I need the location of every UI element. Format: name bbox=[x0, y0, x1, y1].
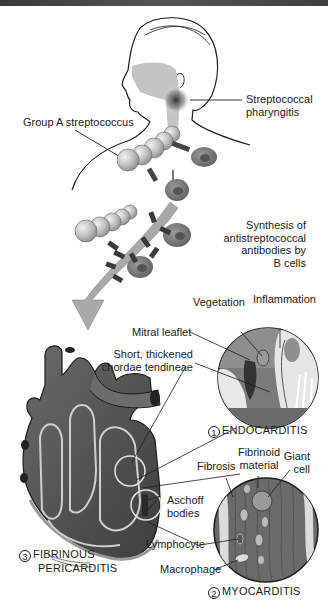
label-line: chordae tendineae bbox=[100, 361, 193, 374]
caption-myocarditis: 2MYOCARDITIS bbox=[208, 585, 301, 599]
label-line: B cells bbox=[218, 257, 306, 270]
label-line: Synthesis of bbox=[218, 219, 306, 232]
number-badge-2: 2 bbox=[208, 587, 220, 599]
label-fibrinoid-material: Fibrinoid material bbox=[236, 446, 282, 471]
label-line: Short, thickened bbox=[100, 348, 193, 361]
label-line: Aschoff bbox=[167, 494, 204, 507]
label-inflammation: Inflammation bbox=[253, 293, 316, 306]
label-line: Streptococcal bbox=[246, 93, 313, 106]
label-line: bodies bbox=[167, 507, 204, 520]
label-lymphocyte: Lymphocyte bbox=[146, 538, 205, 551]
heart-illustration bbox=[20, 346, 161, 567]
label-chordae-tendineae: Short, thickened chordae tendineae bbox=[100, 348, 193, 373]
caption-endocarditis: 1ENDOCARDITIS bbox=[208, 424, 308, 438]
label-vegetation: Vegetation bbox=[193, 296, 245, 309]
label-line: Giant bbox=[280, 450, 310, 463]
label-mitral-leaflet: Mitral leaflet bbox=[132, 326, 191, 339]
number-badge-3: 3 bbox=[19, 550, 31, 562]
label-line: Fibrinoid bbox=[236, 446, 282, 459]
myocarditis-magnified-view bbox=[214, 478, 320, 582]
label-macrophage: Macrophage bbox=[160, 563, 221, 576]
head-figure bbox=[72, 18, 250, 190]
caption-text: MYOCARDITIS bbox=[222, 585, 301, 597]
caption-text: PERICARDITIS bbox=[19, 562, 117, 575]
caption-fibrinous-pericarditis: 3FIBRINOUS PERICARDITIS bbox=[19, 548, 117, 575]
label-giant-cell: Giant cell bbox=[280, 450, 310, 475]
caption-text: ENDOCARDITIS bbox=[222, 424, 308, 436]
label-fibrosis: Fibrosis bbox=[197, 460, 236, 473]
label-line: antibodies by bbox=[218, 244, 306, 257]
label-group-a-streptococcus: Group A streptococcus bbox=[23, 116, 134, 129]
label-line: cell bbox=[280, 463, 310, 476]
label-line: pharyngitis bbox=[246, 106, 313, 119]
streptococcus-chain-top bbox=[117, 126, 180, 171]
caption-text: FIBRINOUS bbox=[33, 548, 95, 560]
label-antibody-synthesis: Synthesis of antistreptococcal antibodie… bbox=[218, 219, 306, 269]
pharyngitis-spot bbox=[162, 86, 190, 114]
label-streptococcal-pharyngitis: Streptococcal pharyngitis bbox=[246, 93, 313, 118]
label-line: material bbox=[236, 459, 282, 472]
streptococcus-chain-middle bbox=[75, 205, 137, 242]
label-line: antistreptococcal bbox=[218, 232, 306, 245]
number-badge-1: 1 bbox=[208, 426, 220, 438]
label-aschoff-bodies: Aschoff bodies bbox=[167, 494, 204, 519]
